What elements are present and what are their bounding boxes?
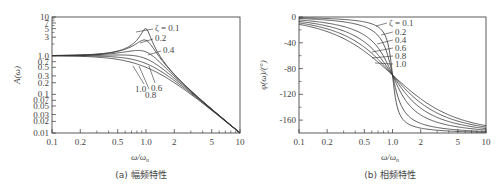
y-tick-label: 0.3	[38, 71, 50, 81]
plot-frame	[52, 17, 240, 133]
curve-label: 0.6	[151, 83, 163, 93]
label-leader-line	[381, 32, 393, 35]
label-leader-line	[376, 23, 387, 26]
x-tick-label: 0.5	[359, 137, 371, 147]
x-tick-label: 10	[236, 137, 246, 147]
y-tick-label: 0.1	[38, 89, 49, 99]
right-caption: (b) 相频特性	[364, 169, 416, 180]
left-y-axis-label: A(ω)	[12, 66, 22, 85]
y-tick-label: 0	[292, 12, 297, 22]
right-x-axis-label: ω/ωn	[381, 152, 399, 163]
curve-label: 0.2	[155, 33, 166, 43]
x-tick-label: 2	[172, 137, 177, 147]
y-tick-label: -160	[280, 115, 297, 125]
y-tick-label: 1.0	[38, 51, 50, 61]
y-tick-label: -80	[284, 64, 296, 74]
x-tick-label: 10	[482, 137, 492, 147]
amplitude-frequency-chart: 0.10.20.51.025100.010.020.030.050.070.10…	[33, 12, 245, 147]
left-caption: (a) 幅频特性	[115, 169, 166, 180]
label-leader-line	[149, 66, 155, 83]
x-tick-label: 1.0	[387, 137, 399, 147]
label-leader-line	[377, 40, 393, 44]
x-tick-label: 0.2	[75, 137, 86, 147]
x-tick-label: 0.5	[112, 137, 124, 147]
y-tick-label: -120	[280, 89, 297, 99]
x-tick-label: 1.0	[140, 137, 152, 147]
x-tick-label: 0.2	[322, 137, 333, 147]
curve-label: ζ = 0.1	[155, 23, 180, 33]
y-tick-label: -40	[284, 38, 296, 48]
y-tick-label: 0.01	[33, 128, 49, 138]
label-leader-line	[140, 39, 153, 43]
label-leader-line	[133, 66, 144, 84]
right-y-axis-label: φ(ω)/(°)	[258, 60, 268, 89]
left-x-axis-label: ω/ωn	[131, 152, 149, 163]
y-tick-label: 0.03	[33, 110, 49, 120]
y-tick-label: 3	[45, 32, 50, 42]
x-tick-label: 0.1	[293, 137, 304, 147]
curve-label: 1.0	[395, 59, 407, 69]
phase-curve-zeta-1	[299, 24, 486, 125]
x-tick-label: 2	[418, 137, 423, 147]
figure: 0.10.20.51.025100.010.020.030.050.070.10…	[0, 0, 502, 193]
amplitude-curve-zeta-0.1	[52, 29, 240, 133]
x-tick-label: 5	[209, 137, 214, 147]
x-tick-label: 5	[456, 137, 461, 147]
y-tick-label: 10	[40, 12, 50, 22]
x-tick-label: 0.1	[46, 137, 57, 147]
phase-frequency-chart: 0.10.20.51.025100-40-80-120-160ζ = 0.10.…	[280, 12, 492, 147]
curve-label: 0.4	[163, 45, 175, 55]
